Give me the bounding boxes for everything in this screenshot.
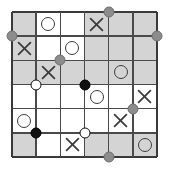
grid-line-vertical-4	[108, 12, 109, 157]
grid-cell-r3c5[interactable]	[109, 60, 133, 84]
gray-node-marker[interactable]	[103, 152, 114, 163]
grid-cell-r1c2[interactable]	[36, 12, 60, 36]
x-mark-icon	[113, 113, 128, 128]
grid-cell-r2c5[interactable]	[109, 36, 133, 60]
grid-line-vertical-2	[60, 12, 61, 157]
gray-node-marker[interactable]	[55, 55, 66, 66]
grid-cell-r6c6[interactable]	[133, 133, 157, 157]
grid-cell-r3c6[interactable]	[133, 60, 157, 84]
circle-mark-icon	[90, 90, 104, 104]
grid-cell-r2c4[interactable]	[85, 36, 109, 60]
gray-node-marker[interactable]	[103, 7, 114, 18]
black-node-marker[interactable]	[79, 79, 90, 90]
black-node-marker[interactable]	[31, 127, 42, 138]
x-mark-icon	[89, 17, 104, 32]
circle-mark-icon	[138, 138, 152, 152]
circle-mark-icon	[17, 114, 31, 128]
puzzle-diagram	[0, 0, 169, 169]
x-mark-icon	[17, 41, 32, 56]
white-node-marker[interactable]	[79, 127, 90, 138]
x-mark-icon	[41, 65, 56, 80]
circle-mark-icon	[114, 65, 128, 79]
x-mark-icon	[65, 137, 80, 152]
x-mark-icon	[137, 89, 152, 104]
circle-mark-icon	[41, 17, 55, 31]
circle-mark-icon	[65, 41, 79, 55]
gray-node-marker[interactable]	[7, 31, 18, 42]
grid-cell-r1c3[interactable]	[60, 12, 84, 36]
gray-node-marker[interactable]	[127, 103, 138, 114]
grid-line-vertical-5	[132, 12, 133, 157]
gray-node-marker[interactable]	[152, 31, 163, 42]
white-node-marker[interactable]	[31, 79, 42, 90]
grid-layer	[12, 12, 157, 157]
